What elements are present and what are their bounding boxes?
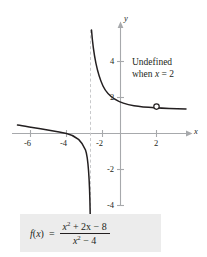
annotation-when-text: when [132,69,155,79]
y-axis-label: y [124,14,128,23]
x-tick-label-2: 2 [154,139,158,148]
denominator-rest: − 4 [81,235,97,246]
y-tick-label-4: 4 [110,57,114,66]
function-graph-figure: y x -6 -4 -2 2 4 2 -2 -4 Undefined when … [0,0,207,257]
annotation-value: = 2 [159,69,174,79]
formula-paren-close: ) [41,228,44,239]
y-tick-label--2: -2 [107,165,114,174]
x-axis-label: x [194,127,198,136]
x-tick-label--4: -4 [60,139,67,148]
x-tick-label--6: -6 [24,139,31,148]
y-tick-label-2: 2 [110,93,114,102]
formula-function-name: f(x) [30,228,44,239]
x-tick-label--2: -2 [96,139,103,148]
formula-fraction: x2 + 2x − 8 x2 − 4 [60,221,110,246]
formula-equals: = [49,228,55,239]
undefined-annotation-line1: Undefined [132,57,174,69]
open-circle-hole-icon [154,104,159,109]
undefined-annotation: Undefined when x = 2 [132,57,174,80]
function-formula: f(x) = x2 + 2x − 8 x2 − 4 [30,221,110,246]
undefined-annotation-line2: when x = 2 [132,69,174,81]
formula-denominator: x2 − 4 [70,234,100,246]
y-tick-label--4: -4 [107,201,114,210]
y-axis-arrowhead [118,22,124,29]
x-axis-arrowhead [186,131,193,137]
formula-numerator: x2 + 2x − 8 [60,221,110,234]
numerator-rest: + 2x − 8 [70,221,106,232]
